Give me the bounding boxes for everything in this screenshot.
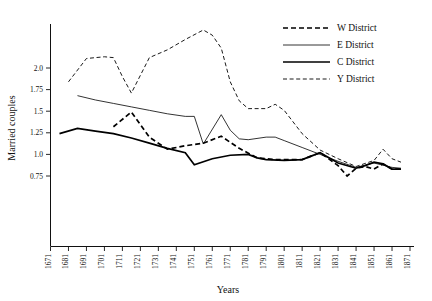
y-tick-label: 1.5 <box>34 107 44 116</box>
legend-label-w-district: W District <box>337 23 377 33</box>
x-tick-label: 1791 <box>259 254 268 269</box>
x-axis-tick-labels: 1671168116911701171117211731174117511761… <box>44 254 413 269</box>
x-tick-label: 1841 <box>349 254 358 269</box>
legend-label-y-district: Y District <box>337 74 375 84</box>
x-tick-label: 1721 <box>133 254 142 269</box>
x-tick-label: 1751 <box>187 254 196 269</box>
x-tick-label: 1861 <box>385 254 394 269</box>
x-tick-label: 1681 <box>61 254 70 269</box>
x-tick-label: 1771 <box>223 254 232 269</box>
x-tick-label: 1701 <box>97 254 106 269</box>
chart-figure: 0.751.01.251.51.752.0 167116811691170117… <box>0 0 432 301</box>
x-tick-label: 1831 <box>331 254 340 269</box>
x-tick-label: 1671 <box>44 254 53 269</box>
line-chart-canvas: 0.751.01.251.51.752.0 167116811691170117… <box>0 0 432 301</box>
y-tick-label: 2.0 <box>34 64 44 73</box>
x-tick-label: 1871 <box>403 254 412 269</box>
x-tick-label: 1781 <box>241 254 250 269</box>
y-tick-label: 1.0 <box>34 150 44 159</box>
x-tick-label: 1821 <box>313 254 322 269</box>
x-tick-label: 1851 <box>367 254 376 269</box>
legend-label-c-district: C District <box>337 57 375 67</box>
x-tick-label: 1691 <box>79 254 88 269</box>
legend-label-e-district: E District <box>337 40 374 50</box>
x-tick-label: 1801 <box>277 254 286 269</box>
y-axis-title: Married couples <box>6 95 17 160</box>
x-tick-label: 1711 <box>115 254 124 269</box>
x-tick-label: 1731 <box>151 254 160 269</box>
y-tick-label: 1.75 <box>30 85 43 94</box>
y-tick-label: 1.25 <box>30 128 43 137</box>
x-axis-title: Years <box>217 284 239 295</box>
x-tick-label: 1811 <box>295 254 304 269</box>
y-tick-label: 0.75 <box>30 172 43 181</box>
x-tick-label: 1761 <box>205 254 214 269</box>
x-tick-label: 1741 <box>169 254 178 269</box>
x-axis-ticks <box>51 247 411 252</box>
